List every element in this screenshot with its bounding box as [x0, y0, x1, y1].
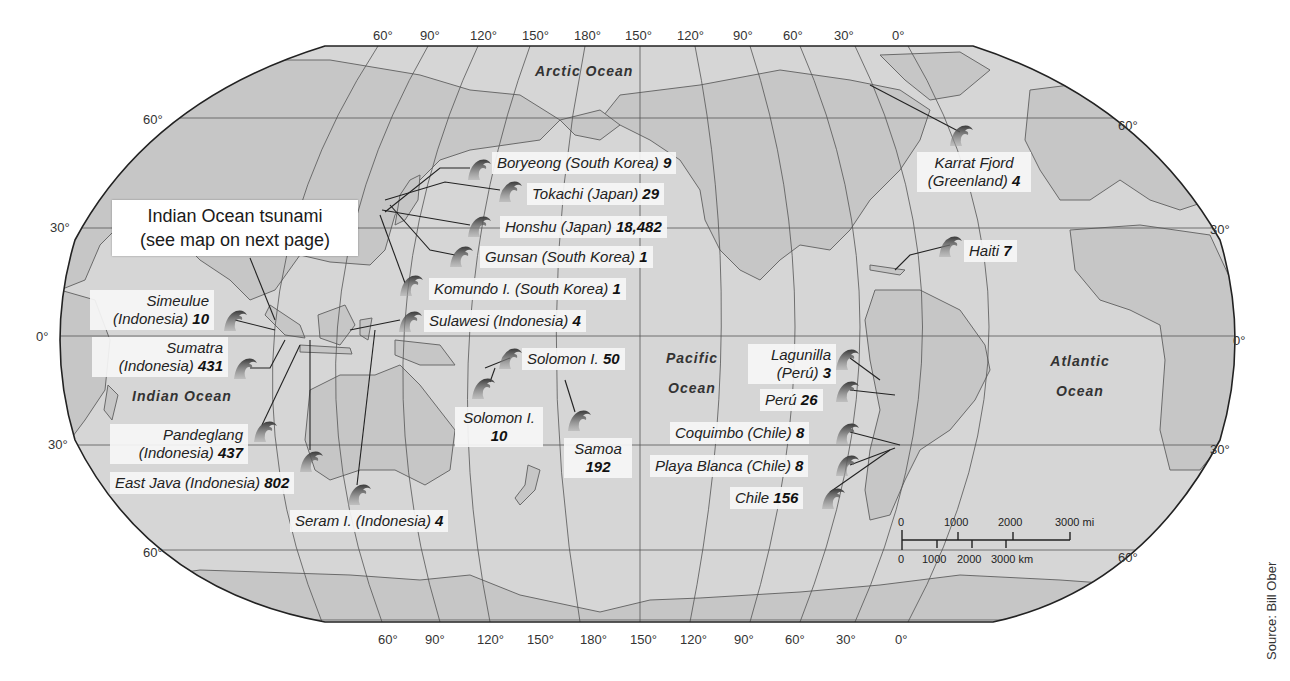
lon-label: 90° [734, 632, 754, 647]
event-label-tokachi: Tokachi (Japan) 29 [527, 183, 664, 205]
event-label-simeulue: Simeulue (Indonesia) 10 [90, 290, 214, 330]
ocean-label-atlantic: Atlantic Ocean [1040, 350, 1120, 402]
event-label-sumatra: Sumatra (Indonesia) 431 [92, 337, 228, 377]
event-label-chile: Chile 156 [730, 487, 803, 509]
lat-label: 30° [48, 437, 68, 452]
lat-label: 0° [36, 329, 48, 344]
lat-label: 60° [1118, 550, 1138, 565]
lon-label: 120° [477, 632, 504, 647]
callout-subtitle: (see map on next page) [118, 228, 352, 252]
lon-label: 30° [836, 632, 856, 647]
lon-label: 30° [834, 28, 854, 43]
lon-label: 60° [785, 632, 805, 647]
lon-label: 0° [892, 28, 904, 43]
event-label-peru: Perú 26 [760, 389, 823, 411]
lon-label: 60° [373, 28, 393, 43]
lat-label: 30° [1210, 222, 1230, 237]
lon-label: 60° [378, 632, 398, 647]
event-label-komundo: Komundo I. (South Korea) 1 [429, 278, 626, 300]
event-label-playa-blanca: Playa Blanca (Chile) 8 [650, 455, 808, 477]
lat-label: 30° [50, 220, 70, 235]
lon-label: 120° [470, 28, 497, 43]
event-label-solomon-10: Solomon I. 10 [455, 407, 543, 447]
event-label-seram: Seram I. (Indonesia) 4 [290, 510, 448, 532]
event-label-lagunilla: Lagunilla (Perú) 3 [748, 344, 836, 384]
event-label-haiti: Haiti 7 [964, 240, 1017, 262]
source-credit: Source: Bill Ober [1264, 562, 1279, 660]
lon-label: 90° [420, 28, 440, 43]
event-label-boryeong: Boryeong (South Korea) 9 [492, 152, 676, 174]
event-label-sulawesi: Sulawesi (Indonesia) 4 [424, 310, 586, 332]
event-label-karrat-fjord: Karrat Fjord (Greenland) 4 [917, 152, 1031, 192]
lon-label: 150° [625, 28, 652, 43]
ocean-label-indian: Indian Ocean [132, 385, 232, 407]
event-label-coquimbo: Coquimbo (Chile) 8 [670, 422, 809, 444]
lat-label: 0° [1233, 333, 1245, 348]
lon-label: 150° [527, 632, 554, 647]
event-label-samoa: Samoa 192 [564, 438, 632, 478]
indian-ocean-tsunami-callout[interactable]: Indian Ocean tsunami (see map on next pa… [112, 200, 358, 256]
lon-label: 90° [733, 28, 753, 43]
lon-label: 60° [783, 28, 803, 43]
lon-label: 180° [580, 632, 607, 647]
event-label-solomon-50: Solomon I. 50 [522, 348, 625, 370]
lon-label: 120° [677, 28, 704, 43]
lat-label: 60° [1118, 118, 1138, 133]
event-label-east-java: East Java (Indonesia) 802 [110, 472, 294, 494]
event-label-pandeglang: Pandeglang (Indonesia) 437 [110, 424, 248, 464]
lat-label: 30° [1210, 442, 1230, 457]
event-label-gunsan: Gunsan (South Korea) 1 [480, 246, 653, 268]
callout-title: Indian Ocean tsunami [118, 204, 352, 228]
lon-label: 180° [574, 28, 601, 43]
lon-label: 90° [425, 632, 445, 647]
lat-label: 60° [143, 545, 163, 560]
lon-label: 120° [680, 632, 707, 647]
ocean-label-arctic: Arctic Ocean [535, 60, 633, 82]
lon-label: 150° [630, 632, 657, 647]
lon-label: 0° [895, 632, 907, 647]
ocean-label-pacific: Pacific Ocean [652, 347, 732, 399]
event-label-honshu: Honshu (Japan) 18,482 [500, 216, 667, 238]
lat-label: 60° [143, 112, 163, 127]
lon-label: 150° [522, 28, 549, 43]
